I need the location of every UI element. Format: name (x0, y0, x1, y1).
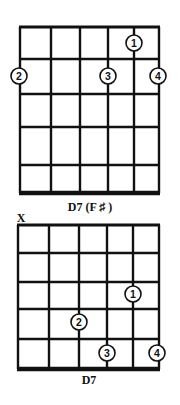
fretboard-grid (19, 27, 160, 193)
finger-number: 4 (154, 347, 160, 359)
finger-dot: 3 (99, 345, 115, 361)
chord-label: D7 (82, 373, 97, 387)
finger-number: 3 (104, 347, 110, 359)
finger-dot: 1 (125, 286, 141, 302)
muted-string-marker: X (17, 211, 26, 225)
finger-number: 2 (76, 316, 82, 328)
chord-diagram-d7-fsharp: 1 2 3 4 D7 (F ♯ ) (11, 27, 166, 214)
finger-dot: 1 (126, 35, 142, 51)
finger-number: 4 (155, 70, 161, 82)
finger-number: 1 (130, 288, 136, 300)
finger-dot: 4 (150, 68, 166, 84)
finger-dot: 3 (100, 68, 116, 84)
finger-number: 1 (131, 37, 137, 49)
chord-label: D7 (F ♯ ) (68, 200, 113, 214)
chord-chart: 1 2 3 4 D7 (F ♯ ) X (0, 0, 180, 405)
finger-number: 3 (105, 70, 111, 82)
chord-diagram-d7: X 1 2 3 4 (17, 211, 165, 387)
finger-dot: 2 (71, 314, 87, 330)
finger-dot: 4 (149, 345, 165, 361)
finger-dot: 2 (11, 68, 27, 84)
finger-number: 2 (16, 70, 22, 82)
